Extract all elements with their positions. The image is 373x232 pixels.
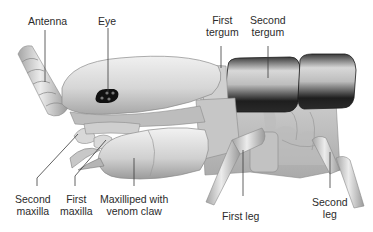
label-antenna: Antenna xyxy=(28,15,67,27)
label-second-leg: Second leg xyxy=(312,196,348,220)
head-capsule xyxy=(62,56,221,126)
label-maxilliped: Maxilliped with venom claw xyxy=(100,193,168,217)
terga xyxy=(224,54,356,112)
maxilliped-shape xyxy=(78,128,209,179)
label-second-tergum: Second tergum xyxy=(250,14,286,38)
label-first-maxilla: First maxilla xyxy=(60,193,93,217)
label-eye: Eye xyxy=(98,15,116,27)
antenna-shape xyxy=(18,46,68,116)
label-second-maxilla: Second maxilla xyxy=(15,193,51,217)
centipede-diagram: Antenna Eye First tergum Second tergum S… xyxy=(0,0,373,232)
label-first-tergum: First tergum xyxy=(206,14,239,38)
label-first-leg: First leg xyxy=(222,210,259,222)
